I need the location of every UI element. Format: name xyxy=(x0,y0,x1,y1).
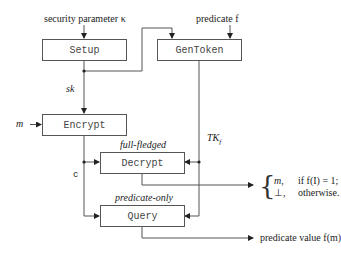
setup-label: Setup xyxy=(69,45,99,56)
token-label: TKf xyxy=(207,133,221,146)
case-condition-2: otherwise. xyxy=(298,188,339,198)
query-label: Query xyxy=(127,211,157,222)
case-value-2: ⊥, xyxy=(274,188,286,198)
predicate-label: predicate f xyxy=(196,14,238,24)
gentoken-box: GenToken xyxy=(157,39,242,61)
gentoken-label: GenToken xyxy=(175,45,223,56)
message-label: m xyxy=(16,119,23,129)
predicate-value-output: predicate value f(m) xyxy=(260,233,341,243)
encrypt-label: Encrypt xyxy=(63,120,105,131)
decrypt-caption: full-fledged xyxy=(120,140,166,150)
security-parameter-label: security parameter κ xyxy=(44,14,126,24)
query-box: Query xyxy=(100,205,185,227)
ciphertext-label: c xyxy=(73,171,78,180)
decrypt-box: Decrypt xyxy=(100,152,185,174)
encrypt-box: Encrypt xyxy=(42,114,127,136)
setup-box: Setup xyxy=(42,39,127,61)
case-value-1: m, xyxy=(274,176,284,186)
case-condition-1: if f(I) = 1; xyxy=(298,176,338,186)
query-caption: predicate-only xyxy=(115,193,173,203)
token-label-subscript: f xyxy=(219,138,221,146)
secret-key-label: sk xyxy=(66,84,74,94)
token-label-main: TK xyxy=(207,132,219,143)
decrypt-label: Decrypt xyxy=(121,158,163,169)
